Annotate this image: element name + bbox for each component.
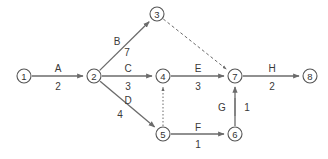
node-1[interactable]: 1 <box>17 69 31 83</box>
node-8[interactable]: 8 <box>303 69 317 83</box>
edge-name-B: B <box>114 36 121 47</box>
node-4[interactable]: 4 <box>156 69 170 83</box>
nodes-layer: 12345678 <box>17 7 317 141</box>
edge-name-C: C <box>124 63 131 74</box>
node-label-3: 3 <box>154 9 159 20</box>
node-3[interactable]: 3 <box>150 7 164 21</box>
edge-name-F: F <box>195 122 201 133</box>
edge-name-E: E <box>195 63 202 74</box>
edge-name-A: A <box>55 63 62 74</box>
node-label-2: 2 <box>91 71 96 82</box>
node-label-4: 4 <box>160 71 165 82</box>
node-2[interactable]: 2 <box>87 69 101 83</box>
node-label-5: 5 <box>160 129 165 140</box>
edge-duration-H: 2 <box>269 81 275 92</box>
edge-duration-B: 7 <box>124 47 130 58</box>
edge-duration-F: 1 <box>195 139 201 150</box>
node-5[interactable]: 5 <box>156 127 170 141</box>
edge-duration-G: 1 <box>244 102 250 113</box>
node-label-7: 7 <box>232 71 237 82</box>
edge-duration-E: 3 <box>195 81 201 92</box>
edge-duration-D: 4 <box>117 109 123 120</box>
edge-name-H: H <box>268 63 275 74</box>
network-diagram: 12345678 A2B7C3D4E3F1G1H2 <box>0 0 328 159</box>
node-label-1: 1 <box>21 71 26 82</box>
node-7[interactable]: 7 <box>228 69 242 83</box>
node-6[interactable]: 6 <box>228 127 242 141</box>
node-label-6: 6 <box>232 129 237 140</box>
edge-duration-C: 3 <box>125 81 131 92</box>
edge-duration-A: 2 <box>55 81 61 92</box>
edge-name-G: G <box>218 102 226 113</box>
edge-name-D: D <box>124 95 131 106</box>
node-label-8: 8 <box>307 71 312 82</box>
network-diagram-canvas: 12345678 A2B7C3D4E3F1G1H2 <box>0 0 328 159</box>
